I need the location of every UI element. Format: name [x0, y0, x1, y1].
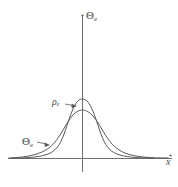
curve-theta-e [9, 110, 168, 158]
y-axis-tip-dot [81, 14, 83, 16]
curve-label-theta-subscript: e [30, 141, 33, 148]
x-axis-label: x [166, 157, 170, 167]
theta-leader-arrowhead [45, 143, 50, 147]
y-axis-label: Θe [86, 10, 97, 22]
curve-label-theta-main: Θ [22, 135, 30, 147]
curve-label-rho-subscript: e [57, 100, 60, 107]
curve-label-rho-e: ρe [52, 97, 60, 108]
plot-canvas [0, 0, 178, 187]
curve-label-theta-e: Θe [22, 136, 33, 148]
y-axis-label-subscript: e [94, 15, 97, 22]
y-axis-label-main: Θ [86, 9, 94, 21]
chart-figure: Θe x ρe Θe [0, 0, 178, 187]
